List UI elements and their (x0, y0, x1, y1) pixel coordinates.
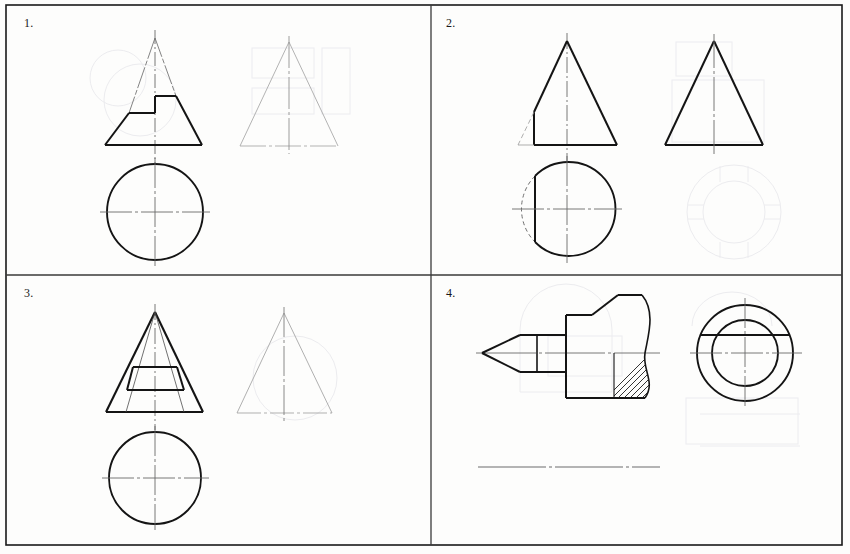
drawing-sheet: 1. 2. 3. 4. (0, 0, 850, 554)
quadrant-label-3: 3. (24, 286, 34, 301)
quadrant-label-4: 4. (446, 286, 456, 301)
quadrant-label-1: 1. (24, 16, 34, 31)
quadrant-label-2: 2. (446, 16, 456, 31)
drawing-canvas (0, 0, 850, 554)
sheet-background (0, 0, 850, 554)
